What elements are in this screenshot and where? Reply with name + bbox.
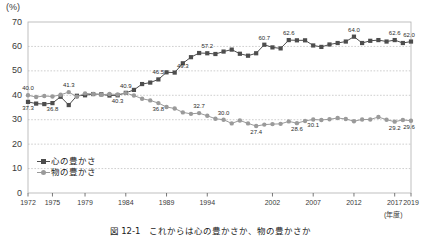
legend-item-label: 心の豊かさ	[51, 156, 96, 167]
y-axis-tick: 70	[2, 17, 22, 27]
chart-legend: 心の豊かさ 物の豊かさ	[36, 156, 96, 178]
y-axis-tick: 40	[2, 90, 22, 100]
data-point-label: 30.1	[302, 122, 324, 128]
data-point-label: 40.3	[107, 98, 129, 104]
figure-caption: 図 12-1 これからは心の豊かさか、物の豊かさか	[0, 224, 421, 236]
legend-item-mono: 物の豊かさ	[36, 167, 96, 178]
data-point-label: 32.7	[188, 103, 210, 109]
data-point-label: 49.3	[172, 63, 194, 69]
legend-item-label: 物の豊かさ	[51, 167, 96, 178]
x-axis-tick: 1994	[194, 199, 220, 206]
legend-item-kokoro: 心の豊かさ	[36, 156, 96, 167]
data-point-label: 37.3	[17, 105, 39, 111]
x-axis-tick: 1972	[15, 199, 41, 206]
x-axis-tick: 1989	[154, 199, 180, 206]
circle-line-icon	[36, 167, 50, 178]
data-point-label: 46.5	[147, 69, 169, 75]
y-axis-tick: 10	[2, 163, 22, 173]
x-axis-tick: 1979	[72, 199, 98, 206]
chart-figure: (%) 010203040506070 19721975197919841989…	[0, 0, 421, 238]
data-point-label: 36.8	[147, 106, 169, 112]
x-axis-unit-label: (年度)	[384, 209, 403, 219]
x-axis-tick: 2019	[398, 199, 421, 206]
y-axis-tick: 20	[2, 139, 22, 149]
y-axis-tick: 60	[2, 41, 22, 51]
data-point-label: 62.6	[278, 30, 300, 36]
data-point-label: 30.0	[213, 110, 235, 116]
data-point-label: 40.9	[115, 83, 137, 89]
x-axis-tick: 2012	[341, 199, 367, 206]
y-axis-tick: 0	[2, 188, 22, 198]
x-axis-tick: 1984	[113, 199, 139, 206]
data-point-label: 60.7	[253, 35, 275, 41]
data-point-label: 62.0	[398, 32, 420, 38]
x-axis-tick: 1975	[39, 199, 65, 206]
x-axis-tick: 2007	[300, 199, 326, 206]
square-line-icon	[36, 156, 50, 167]
data-point-label: 57.2	[196, 43, 218, 49]
data-point-label: 41.3	[58, 82, 80, 88]
y-axis-tick: 50	[2, 65, 22, 75]
data-point-label: 36.8	[41, 106, 63, 112]
y-axis-tick: 30	[2, 114, 22, 124]
data-point-label: 27.4	[245, 129, 267, 135]
data-point-label: 64.0	[343, 27, 365, 33]
data-point-label: 29.6	[398, 124, 420, 130]
x-axis-tick: 2002	[259, 199, 285, 206]
data-point-label: 40.0	[17, 85, 39, 91]
